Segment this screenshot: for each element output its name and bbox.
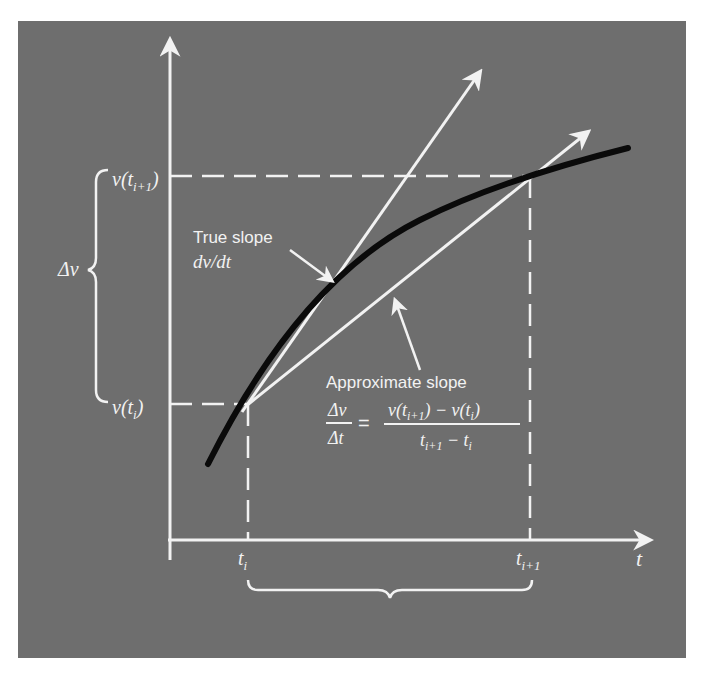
x-axis-label: t bbox=[636, 546, 643, 571]
delta-v-label: Δv bbox=[57, 258, 79, 280]
slope-diagram: v(ti+1) v(ti) Δv ti ti+1 t True slope dv… bbox=[0, 0, 704, 680]
true-slope-title: True slope bbox=[193, 228, 273, 247]
svg-text:=: = bbox=[358, 412, 370, 434]
svg-text:Δv: Δv bbox=[327, 400, 347, 420]
approx-slope-title: Approximate slope bbox=[326, 373, 467, 392]
true-slope-expr: dv/dt bbox=[193, 251, 232, 272]
svg-text:Δt: Δt bbox=[327, 428, 345, 448]
figure-panel bbox=[18, 21, 686, 658]
svg-text:v(ti+1) − v(ti): v(ti+1) − v(ti) bbox=[388, 400, 480, 423]
